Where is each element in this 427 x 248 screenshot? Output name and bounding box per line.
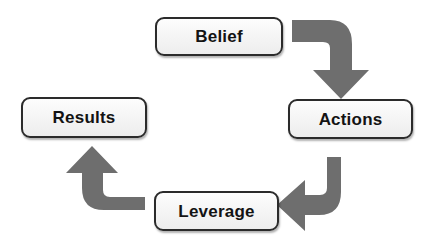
node-results-label: Results: [53, 109, 116, 126]
node-belief-label: Belief: [195, 28, 243, 45]
diagram-canvas: Belief Actions Leverage Results: [0, 0, 427, 248]
arrow-actions-to-leverage-icon: [277, 157, 341, 231]
node-results[interactable]: Results: [21, 97, 147, 138]
node-belief[interactable]: Belief: [155, 17, 283, 56]
node-actions[interactable]: Actions: [288, 99, 413, 139]
arrow-belief-to-actions-icon: [292, 20, 369, 99]
arrow-leverage-to-results-icon: [66, 146, 145, 210]
node-leverage[interactable]: Leverage: [154, 191, 279, 231]
node-leverage-label: Leverage: [178, 203, 254, 220]
node-actions-label: Actions: [319, 111, 383, 128]
